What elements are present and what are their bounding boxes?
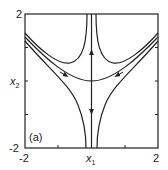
- y-axis-label: x2: [10, 76, 19, 89]
- x-axis-label: x1: [86, 153, 95, 166]
- y-tick-top: 2: [16, 9, 22, 20]
- x-tick-right: 2: [153, 153, 159, 164]
- y-tick-bottom: -2: [9, 143, 19, 154]
- phase-portrait: [0, 0, 168, 170]
- x-tick-left: -2: [19, 153, 29, 164]
- panel-label: (a): [29, 132, 42, 143]
